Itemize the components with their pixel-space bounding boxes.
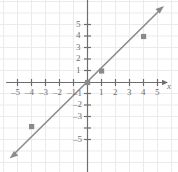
y-tick-label-3: 3 xyxy=(76,43,81,52)
x-tick-label-1: 1 xyxy=(99,88,104,97)
grid-lines xyxy=(0,0,178,172)
x-tick-label--4: –4 xyxy=(25,88,34,97)
x-tick-label-4: 4 xyxy=(141,88,146,97)
coordinate-graph: –5 –4 –3 –2 –1 1 2 3 4 5 5 4 3 2 1 –1 –2… xyxy=(0,0,178,172)
y-tick-label--2: –2 xyxy=(73,100,82,109)
x-axis-label: x xyxy=(167,82,171,91)
x-tick-label--2: –2 xyxy=(53,88,62,97)
y-tick-label-1: 1 xyxy=(76,66,81,75)
y-tick-label--3: –3 xyxy=(73,112,82,121)
data-point xyxy=(141,34,146,39)
y-tick-label--5: –5 xyxy=(73,135,82,144)
x-tick-label-3: 3 xyxy=(127,88,132,97)
data-point xyxy=(29,124,34,129)
x-tick-label-2: 2 xyxy=(113,88,118,97)
x-tick-label--5: –5 xyxy=(11,88,20,97)
y-tick-label-5: 5 xyxy=(76,20,81,29)
x-tick-label-5: 5 xyxy=(155,88,160,97)
y-tick-label-4: 4 xyxy=(76,31,81,40)
x-tick-label--3: –3 xyxy=(39,88,48,97)
graph-canvas xyxy=(0,0,178,172)
y-tick-label-2: 2 xyxy=(76,54,81,63)
data-point xyxy=(99,68,104,73)
y-tick-label--1: –1 xyxy=(73,89,82,98)
data-point xyxy=(85,80,90,85)
